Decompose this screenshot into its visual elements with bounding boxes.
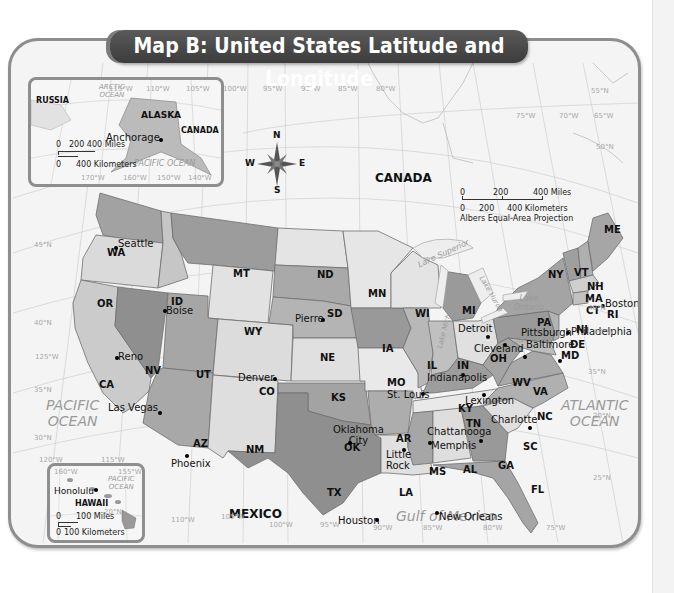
state-KS: KS (331, 392, 346, 403)
city-cleveland: Cleveland (474, 343, 524, 354)
alaska-scale-km: 400 Kilometers (76, 160, 137, 169)
state-UT: UT (196, 369, 211, 380)
city-miami: Miami (556, 545, 586, 548)
state-MT: MT (233, 268, 250, 279)
page-edge-strip (652, 0, 674, 593)
alaska-scale-miles-0: 0 (56, 140, 61, 149)
state-FL: FL (531, 484, 544, 495)
city-baltimore: Baltimore (526, 339, 574, 350)
state-IL: IL (427, 360, 437, 371)
alaska-scale-km-0: 0 (56, 160, 61, 169)
state-OR: OR (97, 298, 113, 309)
state-SC: SC (523, 441, 538, 452)
city-seattle: Seattle (118, 238, 153, 249)
hawaii-inset: 160°W 155°W 20°N PACIFICOCEAN Honolulu H… (47, 463, 145, 543)
city-indianapolis: Indianapolis (427, 372, 487, 383)
state-IA: IA (382, 343, 393, 354)
city-phoenix: Phoenix (171, 458, 211, 469)
city-denver: Denver (238, 372, 274, 383)
state-GA: GA (498, 460, 514, 471)
pacific-ocean-label: PACIFICOCEAN (46, 397, 99, 429)
state-NE: NE (320, 352, 335, 363)
state-MN: MN (368, 288, 386, 299)
city-memphis: Memphis (431, 440, 476, 451)
state-NY: NY (548, 269, 564, 280)
state-WY: WY (244, 326, 262, 337)
state-IN: IN (457, 360, 469, 371)
pacific-ocean-hawaii-label: PACIFICOCEAN (108, 475, 135, 491)
city-new-orleans: New Orleans (439, 511, 503, 522)
state-AR: AR (396, 433, 411, 444)
alaska-inset: RUSSIA ARCTICOCEAN ALASKA CANADA Anchora… (28, 77, 224, 187)
state-RI: RI (607, 309, 618, 320)
state-AL: AL (463, 464, 477, 475)
state-NM: NM (246, 444, 264, 455)
state-CA: CA (99, 379, 114, 390)
state-MS: MS (429, 466, 446, 477)
state-MO: MO (387, 377, 405, 388)
city-charlotte: Charlotte (491, 414, 537, 425)
hawaii-label: HAWAII (75, 499, 108, 508)
state-VT: VT (574, 267, 589, 278)
alaska-scale-miles: 200 400 Miles (69, 140, 125, 149)
pacific-ocean-alaska-label: PACIFIC OCEAN (134, 156, 195, 172)
state-WI: WI (415, 308, 430, 319)
city-detroit: Detroit (458, 323, 492, 334)
state-TX: TX (327, 487, 342, 498)
canada-inset-label: CANADA (181, 126, 219, 135)
state-SD: SD (327, 308, 343, 319)
city-chattanooga: Chattanooga (427, 426, 491, 437)
city-las-vegas: Las Vegas (108, 402, 158, 413)
city-pittsburgh: Pittsburgh (521, 327, 572, 338)
state-LA: LA (399, 487, 413, 498)
alaska-label: ALASKA (141, 110, 181, 120)
state-WV: WV (512, 377, 531, 388)
map-frame: RUSSIA ARCTICOCEAN ALASKA CANADA Anchora… (8, 38, 641, 548)
city-boise: Boise (166, 305, 193, 316)
city-reno: Reno (118, 351, 143, 362)
city-lexington: Lexington (465, 395, 514, 406)
state-CO: CO (259, 386, 275, 397)
russia-label: RUSSIA (36, 96, 69, 105)
city-boston: Boston (605, 298, 640, 309)
map-title: Map B: United States Latitude and Longit… (110, 30, 528, 63)
lake-ontario-label: LakeOntario (514, 294, 544, 312)
city-little-rock: LittleRock (386, 449, 411, 471)
canada-label: CANADA (375, 171, 432, 185)
state-OH: OH (490, 353, 507, 364)
state-NC: NC (537, 411, 553, 422)
anchorage-dot (159, 138, 163, 142)
state-VA: VA (533, 386, 548, 397)
state-MA: MA (585, 293, 603, 304)
honolulu-dot (94, 488, 98, 492)
state-AZ: AZ (193, 438, 208, 449)
state-NV: NV (145, 365, 161, 376)
state-MI: MI (462, 305, 476, 316)
state-ME: ME (604, 224, 621, 235)
state-NH: NH (587, 281, 604, 292)
state-ND: ND (317, 269, 334, 280)
city-oklahoma-city: OklahomaCity (333, 424, 384, 446)
city-st-louis: St. Louis (387, 389, 429, 400)
city-pierre: Pierre (295, 313, 324, 324)
state-MD: MD (561, 350, 579, 361)
city-honolulu: Honolulu (54, 486, 94, 496)
compass-rose: N S W E (253, 134, 301, 194)
